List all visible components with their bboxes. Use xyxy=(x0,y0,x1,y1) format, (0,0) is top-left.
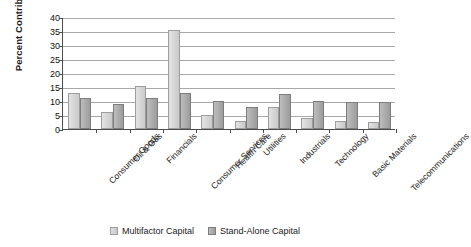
x-axis-category-labels: Consumer GoodsOil & GasFinancialsConsume… xyxy=(62,131,395,217)
y-tick-label: 0 xyxy=(36,126,60,135)
x-category-label: Financials xyxy=(165,131,199,165)
bar xyxy=(346,102,357,129)
x-tick-mark xyxy=(396,129,397,133)
legend-label: Stand-Alone Capital xyxy=(220,226,300,236)
legend-swatch-icon xyxy=(110,227,118,235)
y-tick-label: 25 xyxy=(36,56,60,65)
bar xyxy=(80,98,91,129)
bar xyxy=(313,101,324,129)
x-category-label: Industrials xyxy=(298,131,333,166)
bar xyxy=(168,30,179,129)
bar xyxy=(368,122,379,129)
y-tick-label: 5 xyxy=(36,112,60,121)
bar xyxy=(146,98,157,129)
bar xyxy=(113,104,124,129)
bar xyxy=(301,118,312,129)
y-tick-label: 30 xyxy=(36,42,60,51)
y-tick-label: 10 xyxy=(36,98,60,107)
bar xyxy=(68,93,79,129)
bar xyxy=(279,94,290,129)
x-category-label: Basic Materials xyxy=(370,131,418,179)
y-tick-label: 40 xyxy=(36,14,60,23)
plot-area xyxy=(62,18,395,130)
y-axis-tick-labels: 4035302520151050 xyxy=(36,14,60,130)
bar xyxy=(335,121,346,129)
bar xyxy=(268,107,279,129)
y-tick-label: 20 xyxy=(36,70,60,79)
bar xyxy=(101,112,112,129)
x-category-label: Oil & Gas xyxy=(131,131,164,164)
y-tick-label: 35 xyxy=(36,28,60,37)
bars-layer xyxy=(63,18,395,129)
legend-item: Stand-Alone Capital xyxy=(208,226,300,236)
legend-label: Multifactor Capital xyxy=(122,226,194,236)
chart-legend: Multifactor CapitalStand-Alone Capital xyxy=(0,222,410,240)
bar xyxy=(246,107,257,129)
bar xyxy=(201,115,212,129)
legend-item: Multifactor Capital xyxy=(110,226,194,236)
x-category-label: Technology xyxy=(332,131,370,169)
bar xyxy=(235,121,246,129)
bar xyxy=(180,93,191,129)
x-category-label: Telecommunications xyxy=(409,131,471,193)
y-tick-label: 15 xyxy=(36,84,60,93)
bar xyxy=(213,101,224,129)
bar xyxy=(135,86,146,129)
y-axis-title: Percent Contribution xyxy=(10,0,28,82)
legend-swatch-icon xyxy=(208,227,216,235)
bar xyxy=(379,102,390,129)
